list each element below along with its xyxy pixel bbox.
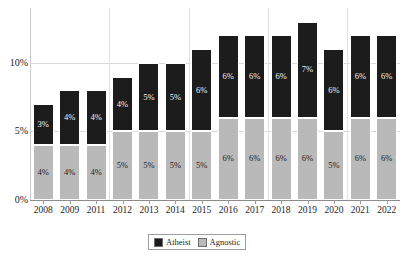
y-gridline xyxy=(30,63,400,64)
stacked-bar-chart: 0%5%10% 3%4%4%4%4%4%4%5%5%5%5%5%6%5%6%6%… xyxy=(0,0,406,264)
bar-segment-atheist[interactable]: 6% xyxy=(376,35,397,117)
x-gridline xyxy=(347,8,348,200)
bar-segment-agnostic[interactable]: 6% xyxy=(218,118,239,200)
bar-value-label-agnostic: 4% xyxy=(64,168,75,177)
bar-segment-atheist[interactable]: 6% xyxy=(191,49,212,131)
x-tick xyxy=(70,200,71,204)
bar-segment-atheist[interactable]: 6% xyxy=(244,35,265,117)
x-tick-label: 2022 xyxy=(374,205,400,216)
x-tick-label: 2013 xyxy=(136,205,162,216)
x-tick-label: 2018 xyxy=(268,205,294,216)
x-tick-label: 2020 xyxy=(321,205,347,216)
bar-segment-atheist[interactable]: 4% xyxy=(59,90,80,145)
bar-group[interactable]: 6%6% xyxy=(376,35,397,200)
x-gridline xyxy=(109,8,110,200)
bar-segment-agnostic[interactable]: 6% xyxy=(297,118,318,200)
bar-segment-atheist[interactable]: 5% xyxy=(138,63,159,132)
bar-segment-agnostic[interactable]: 6% xyxy=(350,118,371,200)
bar-value-label-agnostic: 5% xyxy=(117,161,128,170)
x-tick xyxy=(387,200,388,204)
bar-segment-atheist[interactable]: 6% xyxy=(218,35,239,117)
bar-segment-agnostic[interactable]: 5% xyxy=(191,131,212,200)
x-tick xyxy=(334,200,335,204)
bar-group[interactable]: 6%6% xyxy=(218,35,239,200)
bar-value-label-atheist: 6% xyxy=(381,72,392,81)
bar-group[interactable]: 4%4% xyxy=(86,90,107,200)
x-tick-label: 2019 xyxy=(294,205,320,216)
bar-value-label-atheist: 5% xyxy=(143,93,154,102)
legend-item-atheist[interactable]: Atheist xyxy=(154,238,191,247)
bar-segment-atheist[interactable]: 6% xyxy=(350,35,371,117)
bar-segment-atheist[interactable]: 4% xyxy=(112,77,133,132)
bar-value-label-atheist: 5% xyxy=(170,93,181,102)
x-tick-label: 2014 xyxy=(162,205,188,216)
bar-value-label-agnostic: 6% xyxy=(275,154,286,163)
bar-segment-agnostic[interactable]: 4% xyxy=(86,145,107,200)
bar-value-label-agnostic: 6% xyxy=(249,154,260,163)
bar-value-label-atheist: 6% xyxy=(249,72,260,81)
bar-segment-agnostic[interactable]: 4% xyxy=(59,145,80,200)
x-tick xyxy=(228,200,229,204)
bar-group[interactable]: 6%6% xyxy=(271,35,292,200)
bar-segment-agnostic[interactable]: 5% xyxy=(323,131,344,200)
x-tick xyxy=(96,200,97,204)
bar-group[interactable]: 4%4% xyxy=(59,90,80,200)
legend-swatch-agnostic-icon xyxy=(198,238,207,247)
bar-segment-agnostic[interactable]: 6% xyxy=(376,118,397,200)
y-tick-label: 0% xyxy=(2,195,28,205)
bar-group[interactable]: 3%4% xyxy=(33,104,54,200)
x-tick xyxy=(202,200,203,204)
bar-group[interactable]: 5%5% xyxy=(138,63,159,200)
bar-segment-agnostic[interactable]: 5% xyxy=(138,131,159,200)
y-tick-label: 5% xyxy=(2,126,28,136)
x-tick-label: 2009 xyxy=(56,205,82,216)
x-gridline xyxy=(189,8,190,200)
plot-area: 3%4%4%4%4%4%4%5%5%5%5%5%6%5%6%6%6%6%6%6%… xyxy=(30,8,400,200)
x-tick xyxy=(149,200,150,204)
bar-value-label-atheist: 7% xyxy=(302,65,313,74)
y-axis: 0%5%10% xyxy=(0,0,28,264)
bar-group[interactable]: 4%5% xyxy=(112,77,133,200)
x-tick xyxy=(255,200,256,204)
bar-group[interactable]: 6%5% xyxy=(323,49,344,200)
bar-group[interactable]: 7%6% xyxy=(297,22,318,200)
bar-value-label-atheist: 4% xyxy=(117,100,128,109)
x-tick xyxy=(360,200,361,204)
legend-label-agnostic: Agnostic xyxy=(210,238,241,247)
bar-value-label-agnostic: 6% xyxy=(302,154,313,163)
bar-group[interactable]: 6%6% xyxy=(244,35,265,200)
x-tick xyxy=(175,200,176,204)
legend-item-agnostic[interactable]: Agnostic xyxy=(198,238,241,247)
bar-segment-agnostic[interactable]: 6% xyxy=(271,118,292,200)
bar-group[interactable]: 6%5% xyxy=(191,49,212,200)
x-tick-label: 2008 xyxy=(30,205,56,216)
bar-value-label-atheist: 6% xyxy=(355,72,366,81)
bar-group[interactable]: 5%5% xyxy=(165,63,186,200)
bar-segment-agnostic[interactable]: 5% xyxy=(165,131,186,200)
bar-segment-atheist[interactable]: 4% xyxy=(86,90,107,145)
x-tick-label: 2016 xyxy=(215,205,241,216)
bar-segment-atheist[interactable]: 7% xyxy=(297,22,318,118)
bar-segment-atheist[interactable]: 6% xyxy=(323,49,344,131)
bar-value-label-agnostic: 5% xyxy=(196,161,207,170)
bar-segment-agnostic[interactable]: 5% xyxy=(112,131,133,200)
y-tick-label: 10% xyxy=(2,58,28,68)
bar-segment-agnostic[interactable]: 6% xyxy=(244,118,265,200)
x-tick xyxy=(308,200,309,204)
x-tick xyxy=(43,200,44,204)
x-tick-label: 2015 xyxy=(189,205,215,216)
x-tick xyxy=(281,200,282,204)
bar-value-label-atheist: 3% xyxy=(38,120,49,129)
bar-value-label-agnostic: 4% xyxy=(38,168,49,177)
bar-segment-atheist[interactable]: 5% xyxy=(165,63,186,132)
bar-value-label-atheist: 4% xyxy=(90,113,101,122)
bar-segment-atheist[interactable]: 3% xyxy=(33,104,54,145)
legend-label-atheist: Atheist xyxy=(166,238,191,247)
bar-segment-atheist[interactable]: 6% xyxy=(271,35,292,117)
x-gridline xyxy=(268,8,269,200)
bar-segment-agnostic[interactable]: 4% xyxy=(33,145,54,200)
chart-legend: Atheist Agnostic xyxy=(148,234,246,250)
bar-value-label-atheist: 6% xyxy=(275,72,286,81)
x-tick xyxy=(123,200,124,204)
bar-group[interactable]: 6%6% xyxy=(350,35,371,200)
